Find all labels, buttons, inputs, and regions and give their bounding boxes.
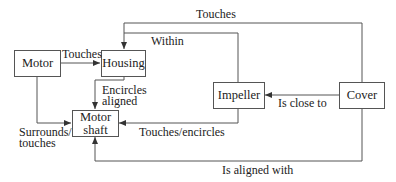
node-motor-shaft-label-2: shaft	[83, 124, 107, 137]
edge-label-cover-shaft: Is aligned with	[222, 164, 293, 177]
node-motor: Motor	[14, 50, 61, 77]
diagram-connectors	[0, 0, 396, 182]
edge-label-cover-impeller: Is close to	[278, 97, 327, 110]
node-impeller-label: Impeller	[218, 89, 260, 102]
edge-label-impeller-housing: Within	[151, 35, 184, 48]
node-motor-shaft-label-1: Motor	[80, 111, 111, 124]
edge-label-motor-housing: Touches	[62, 48, 102, 61]
edge-label-cover-housing: Touches	[196, 8, 236, 21]
edge-label-impeller-shaft: Touches/encircles	[139, 126, 225, 139]
node-motor-label: Motor	[22, 57, 53, 70]
node-impeller: Impeller	[213, 82, 265, 109]
node-cover: Cover	[339, 82, 385, 109]
edge-label-housing-shaft-2: aligned	[102, 95, 137, 108]
node-cover-label: Cover	[347, 89, 378, 102]
node-housing-label: Housing	[102, 57, 144, 70]
node-motor-shaft: Motor shaft	[72, 110, 119, 137]
node-housing: Housing	[101, 50, 146, 77]
edge-label-motor-shaft-2: touches	[19, 137, 56, 150]
